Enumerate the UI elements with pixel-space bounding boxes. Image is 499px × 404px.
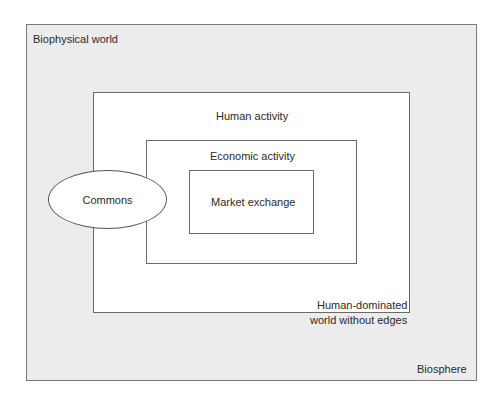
economic-activity-label: Economic activity <box>210 150 295 163</box>
biosphere-label: Biosphere <box>417 363 467 376</box>
world-without-edges-label: world without edges <box>310 314 407 327</box>
commons-ellipse: Commons <box>48 170 167 229</box>
biophysical-world-label: Biophysical world <box>33 33 118 46</box>
human-dominated-label: Human-dominated <box>317 299 408 312</box>
market-exchange-label: Market exchange <box>211 196 295 209</box>
human-activity-label: Human activity <box>216 110 288 123</box>
commons-label: Commons <box>82 194 132 206</box>
